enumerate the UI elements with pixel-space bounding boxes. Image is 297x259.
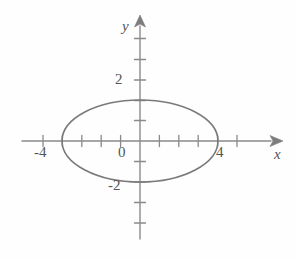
y-axis-label: y	[122, 19, 129, 34]
x-axis-label: x	[274, 147, 281, 162]
x-axis-arrow-icon	[270, 136, 283, 147]
y-tick-label-neg2: -2	[108, 178, 121, 193]
x-tick-label-neg4: -4	[34, 145, 47, 160]
y-tick-label-2: 2	[115, 72, 123, 87]
origin-label: 0	[118, 145, 126, 160]
plot-canvas	[0, 0, 297, 259]
y-axis-arrow-icon	[135, 15, 146, 27]
ellipse-figure: x y -4 4 2 -2 0	[0, 0, 297, 259]
x-tick-label-4: 4	[216, 145, 224, 160]
